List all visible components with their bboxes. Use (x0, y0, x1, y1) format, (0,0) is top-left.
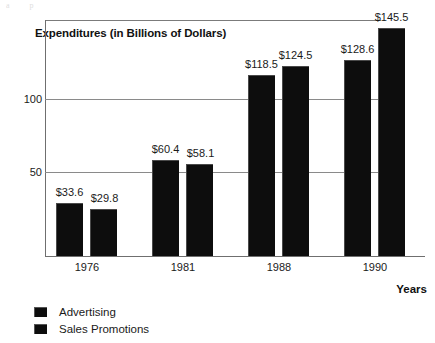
bar-label-1990-advertising: $128.6 (332, 43, 383, 55)
x-axis-title: Years (396, 283, 427, 295)
bar-label-1976-sales-promotions: $29.8 (82, 192, 127, 204)
bar-1990-advertising (344, 60, 371, 256)
legend-swatch-icon-advertising (34, 307, 47, 317)
x-tick-label-1981: 1981 (158, 261, 208, 273)
bar-label-1990-sales-promotions: $145.5 (366, 11, 417, 23)
x-axis-line (45, 256, 425, 257)
bar-1976-advertising (56, 203, 83, 256)
y-tick-label-50: 50 (30, 166, 42, 178)
bar-1981-sales-promotions (186, 164, 213, 256)
bar-1988-advertising (248, 75, 275, 256)
y-tick-label-100: 100 (24, 93, 42, 105)
gridline-100 (45, 99, 381, 100)
legend-label-sales-promotions: Sales Promotions (59, 323, 149, 335)
y-axis-tick-labels: 100 50 (0, 0, 42, 343)
bar-label-1988-sales-promotions: $124.5 (270, 49, 321, 61)
x-tick-label-1988: 1988 (254, 261, 304, 273)
gridline-50 (45, 172, 381, 173)
bar-label-1981-sales-promotions: $58.1 (178, 147, 223, 159)
legend: Advertising Sales Promotions (34, 303, 149, 337)
legend-item-advertising: Advertising (34, 303, 149, 320)
bar-1981-advertising (152, 160, 179, 256)
legend-item-sales-promotions: Sales Promotions (34, 320, 149, 337)
bar-1988-sales-promotions (282, 66, 309, 256)
chart-title: Expenditures (in Billions of Dollars) (35, 27, 226, 39)
y-axis-line (45, 20, 46, 257)
x-tick-label-1990: 1990 (350, 261, 400, 273)
legend-label-advertising: Advertising (59, 306, 116, 318)
bar-1976-sales-promotions (90, 209, 117, 256)
x-tick-label-1976: 1976 (62, 261, 112, 273)
bar-chart: a p Expenditures (in Billions of Dollars… (0, 0, 435, 343)
legend-swatch-icon-sales-promotions (34, 324, 47, 334)
bar-1990-sales-promotions (378, 28, 405, 256)
plot-top-rule (45, 20, 381, 21)
